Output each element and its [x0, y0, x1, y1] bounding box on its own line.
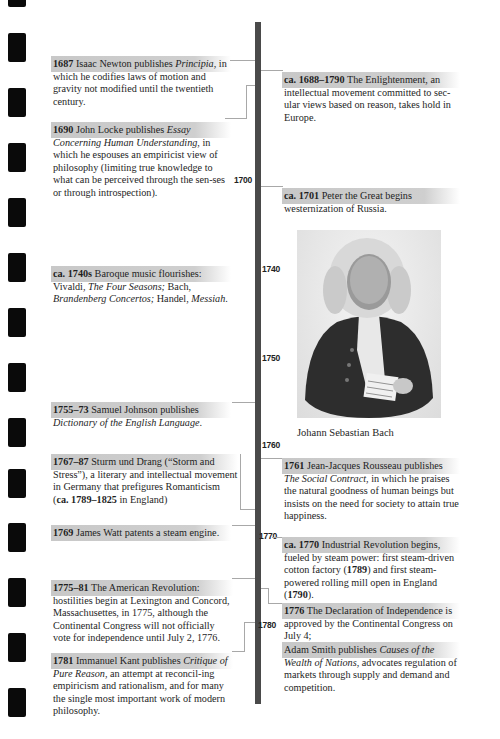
entry-text: Immanuel Kant publishes Critique of Pure… [53, 655, 228, 716]
bach-portrait [297, 230, 441, 418]
timeline-entry-american-revolution: 1775–81 The American Revolution: hostili… [53, 582, 233, 645]
binder-tab [8, 198, 26, 227]
binder-tab [8, 253, 26, 282]
entry-text: Jean-Jacques Rousseau publishes The Soci… [284, 460, 459, 521]
timeline-entry-kant: 1781 Immanuel Kant publishes Critique of… [53, 655, 233, 718]
timeline-spine [255, 22, 261, 704]
binder-tab [8, 308, 26, 337]
entry-text: James Watt patents a steam engine. [73, 527, 219, 538]
binder-tab [8, 578, 26, 607]
entry-text: Adam Smith publishes Causes of the Wealt… [284, 644, 457, 693]
entry-date: 1781 [53, 655, 73, 666]
entry-text: The Declaration of Independence is appro… [284, 605, 453, 641]
timeline-entry-rousseau: 1761 Jean-Jacques Rousseau publishes The… [284, 460, 460, 523]
timeline-entry-industrial-revolution: ca. 1770 Industrial Revolution begins, f… [284, 539, 460, 602]
timeline-entry-johnson: 1755–73 Samuel Johnson publishes Diction… [53, 404, 231, 429]
entry-text: John Locke publishes Essay Concerning Hu… [53, 124, 225, 198]
binder-tab [8, 469, 26, 498]
binder-tab [8, 688, 26, 717]
timeline-entry-adam-smith: Adam Smith publishes Causes of the Wealt… [284, 644, 460, 694]
year-marker-1780: 1780 [258, 620, 276, 630]
timeline-entry-enlightenment: ca. 1688–1790 The Enlightenment, an inte… [284, 74, 460, 124]
portrait-caption: Johann Sebastian Bach [297, 427, 394, 438]
year-marker-1740: 1740 [262, 264, 280, 274]
timeline-entry-sturm: 1767–87 Sturm und Drang (“Storm and Stre… [53, 456, 238, 506]
binder-tab [8, 523, 26, 552]
binder-tab [8, 88, 26, 117]
timeline-entry-baroque: ca. 1740s Baroque music flourishes: Viva… [53, 268, 231, 306]
entry-date: 1761 [284, 460, 304, 471]
entry-date: 1767–87 [53, 456, 89, 467]
binder-tab [8, 33, 26, 62]
portrait-image [297, 230, 441, 418]
entry-date: ca. 1740s [53, 268, 92, 279]
entry-date: ca. 1688–1790 [284, 74, 345, 85]
binder-tab [8, 363, 26, 392]
binder-tab [8, 0, 26, 7]
timeline-entry-locke: 1690 John Locke publishes Essay Concerni… [53, 124, 231, 200]
year-marker-1700: 1700 [234, 175, 252, 185]
entry-date: 1769 [53, 527, 73, 538]
timeline-entry-newton: 1687 Isaac Newton publishes Principia, i… [53, 58, 231, 108]
binder-tab [8, 633, 26, 662]
year-marker-1760: 1760 [262, 440, 280, 450]
entry-date: 1690 [53, 124, 73, 135]
entry-date: 1687 [53, 58, 73, 69]
entry-date: 1755–73 [53, 404, 89, 415]
entry-date: ca. 1701 [284, 190, 319, 201]
timeline-entry-watt: 1769 James Watt patents a steam engine. [53, 527, 231, 540]
year-marker-1770: 1770 [259, 531, 277, 541]
entry-text: Isaac Newton publishes Principia, in whi… [53, 58, 227, 107]
entry-date: 1775–81 [53, 582, 89, 593]
entry-date: ca. 1770 [284, 539, 319, 550]
timeline-entry-peter-the-great: ca. 1701 Peter the Great begins westerni… [284, 190, 460, 215]
timeline-entry-declaration: 1776 The Declaration of Independence is … [284, 605, 460, 643]
binder-tab [8, 418, 26, 447]
binder-tab [8, 143, 26, 172]
entry-date: 1776 [284, 605, 304, 616]
year-marker-1750: 1750 [262, 353, 280, 363]
